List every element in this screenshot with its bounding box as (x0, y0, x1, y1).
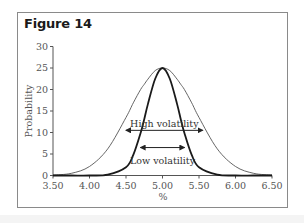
x-axis-label: % (158, 191, 167, 202)
x-tick-label: 6.00 (225, 180, 246, 191)
x-tick-label: 5.00 (152, 180, 173, 191)
y-tick-label: 25 (36, 62, 48, 73)
x-tick-label: 6.50 (261, 180, 282, 191)
y-tick-label: 15 (36, 105, 48, 116)
x-tick-label: 4.00 (79, 180, 100, 191)
low-volatility-label: Low volatility (130, 155, 196, 166)
x-tick-label: 3.50 (42, 180, 63, 191)
bottom-strip (0, 215, 304, 223)
axes: 0510152025303.504.004.505.005.506.006.50 (36, 41, 283, 191)
x-tick-label: 5.50 (188, 180, 209, 191)
y-tick-label: 10 (36, 127, 48, 138)
y-tick-label: 20 (36, 84, 48, 95)
y-axis-label: Probability (23, 84, 34, 137)
x-tick-label: 4.50 (115, 180, 136, 191)
y-tick-label: 5 (42, 148, 48, 159)
high-volatility-label: High volatility (130, 118, 199, 129)
y-tick-label: 30 (36, 41, 48, 52)
line-chart: 0510152025303.504.004.505.005.506.006.50… (0, 0, 304, 223)
